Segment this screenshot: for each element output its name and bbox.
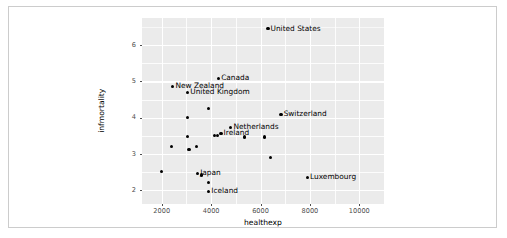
- x-tick-label: 4000: [191, 208, 231, 215]
- data-point: [279, 113, 282, 116]
- data-point: [263, 135, 266, 138]
- data-point-label: Luxembourg: [310, 173, 356, 180]
- x-tick-label: 10000: [339, 208, 379, 215]
- scatter-plot: United StatesCanadaNew ZealandUnited Kin…: [9, 7, 498, 229]
- x-tick-label: 2000: [142, 208, 182, 215]
- gridline-major-y: [142, 45, 384, 46]
- y-tick-mark: [140, 45, 142, 46]
- y-tick-mark: [140, 154, 142, 155]
- data-point-label: United Kingdom: [190, 88, 249, 95]
- data-point-label: Japan: [200, 169, 221, 176]
- data-point: [219, 132, 222, 135]
- gridline-minor-y: [142, 27, 384, 28]
- gridline-minor-y: [142, 63, 384, 64]
- y-tick-label: 3: [112, 151, 136, 158]
- data-point-label: United States: [271, 25, 321, 32]
- data-point: [243, 135, 246, 138]
- y-tick-label: 5: [112, 78, 136, 85]
- data-point-label: Iceland: [211, 187, 238, 194]
- y-tick-label: 6: [112, 42, 136, 49]
- y-tick-label: 4: [112, 114, 136, 121]
- y-tick-mark: [140, 118, 142, 119]
- gridline-major-y: [142, 190, 384, 191]
- data-point: [187, 148, 190, 151]
- y-axis-title: infmortality: [98, 81, 106, 141]
- data-point: [207, 181, 210, 184]
- x-tick-label: 8000: [290, 208, 330, 215]
- x-tick-label: 6000: [241, 208, 281, 215]
- gridline-minor-x: [384, 18, 385, 204]
- y-tick-mark: [140, 190, 142, 191]
- data-point: [196, 172, 199, 175]
- gridline-minor-y: [142, 100, 384, 101]
- figure-frame: United StatesCanadaNew ZealandUnited Kin…: [8, 6, 497, 228]
- gridline-major-y: [142, 118, 384, 119]
- gridline-major-y: [142, 154, 384, 155]
- data-point-label: Canada: [221, 74, 249, 81]
- y-tick-label: 2: [112, 187, 136, 194]
- data-point: [200, 173, 203, 176]
- y-tick-mark: [140, 81, 142, 82]
- data-point-label: Switzerland: [284, 110, 327, 117]
- x-axis-title: healthexp: [203, 219, 323, 227]
